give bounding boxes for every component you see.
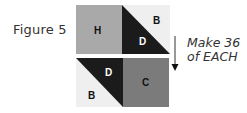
label-h: H: [94, 25, 101, 36]
bottom-unit: D B C: [76, 58, 169, 107]
instruction-text: Make 36 of EACH: [187, 36, 240, 64]
label-b: B: [88, 90, 95, 101]
down-arrow-icon: [170, 36, 180, 72]
instruction-line-2: of EACH: [187, 50, 240, 64]
label-c: C: [142, 77, 149, 88]
label-b: B: [153, 15, 160, 26]
label-d: D: [105, 67, 112, 78]
half-square-triangle-db: [76, 58, 123, 107]
figure-caption: Figure 5: [13, 22, 67, 37]
top-unit: H B D: [76, 5, 170, 54]
instruction-line-1: Make 36: [187, 36, 240, 50]
label-d: D: [139, 36, 146, 47]
